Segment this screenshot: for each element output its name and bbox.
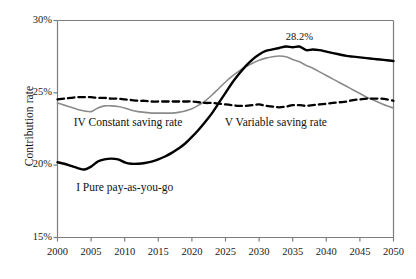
- y-axis-tick-label: 20%: [18, 158, 52, 169]
- y-axis-tick-label: 25%: [18, 86, 52, 97]
- series-label-variable-saving: V Variable saving rate: [225, 116, 327, 128]
- series-label-pay-as-you-go: I Pure pay-as-you-go: [76, 181, 173, 193]
- labels-layer: 15%20%25%30%2000200520102015202020252030…: [0, 0, 416, 279]
- chart-figure: Contribution rate 15%20%25%30%2000200520…: [0, 0, 416, 279]
- x-axis-tick-label: 2050: [374, 246, 414, 257]
- peak-value-label: 28.2%: [286, 31, 313, 42]
- y-axis-tick-label: 30%: [18, 14, 52, 25]
- series-label-constant-saving: IV Constant saving rate: [74, 116, 183, 128]
- y-axis-tick-label: 15%: [18, 231, 52, 242]
